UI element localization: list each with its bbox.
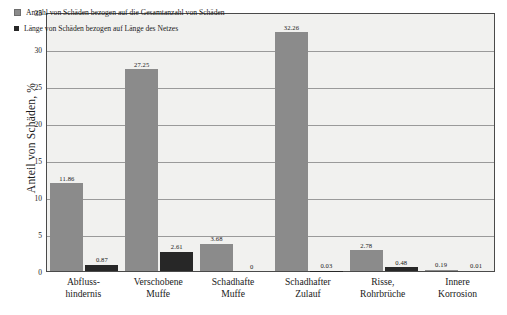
bar-group-5: 2.780.48 (350, 14, 418, 271)
bar-value-label-s2-c3: 0 (250, 263, 253, 270)
y-axis-tick-10: 10 (20, 194, 42, 203)
bar-chart: Anteil von Schäden, % 05101520253035 11.… (0, 0, 507, 315)
bar-series1-cat6 (425, 270, 458, 271)
y-axis-tick-0: 0 (20, 268, 42, 277)
x-axis-label-4: SchadhafterZulauf (271, 276, 346, 300)
x-axis-label-2-line-2: Muffe (121, 288, 196, 300)
bar-value-label-s1-c6: 0.19 (435, 261, 447, 268)
x-axis-label-6: InnereKorrosion (420, 276, 495, 300)
bar-series1-cat2 (125, 69, 158, 271)
series-2-swatch (14, 26, 19, 31)
bar-value-label-s1-c3: 3.68 (211, 235, 223, 242)
bar-group-3: 3.680 (200, 14, 268, 271)
bar-value-label-s1-c4: 32.26 (284, 24, 299, 31)
bar-value-label-s1-c2: 27.25 (134, 61, 149, 68)
x-axis-label-2-line-1: Verschobene (121, 276, 196, 288)
bar-group-2: 27.252.61 (125, 14, 193, 271)
x-axis-label-4-line-2: Zulauf (271, 288, 346, 300)
bar-value-label-s1-c5: 2.78 (360, 242, 372, 249)
bar-series1-cat3 (200, 244, 233, 271)
plot-area: 11.860.8727.252.613.68032.260.032.780.48… (46, 13, 495, 272)
bar-series2-cat1 (85, 265, 118, 271)
x-axis-label-1-line-2: hindernis (46, 288, 121, 300)
legend-item-1: Anzahl von Schäden bezogen auf die Gesam… (14, 8, 225, 17)
bar-series2-cat2 (160, 252, 193, 271)
bars-layer: 11.860.8727.252.613.68032.260.032.780.48… (47, 14, 494, 271)
x-axis-label-3-line-2: Muffe (196, 288, 271, 300)
bar-series1-cat5 (350, 250, 383, 271)
x-axis-label-4-line-1: Schadhafter (271, 276, 346, 288)
bar-value-label-s2-c1: 0.87 (96, 256, 108, 263)
y-axis-tick-labels: 05101520253035 (20, 13, 42, 272)
x-axis-label-1: Abfluss-hindernis (46, 276, 121, 300)
bar-group-4: 32.260.03 (275, 14, 343, 271)
x-axis-label-3-line-1: Schadhafte (196, 276, 271, 288)
y-axis-tick-25: 25 (20, 83, 42, 92)
x-axis-label-6-line-1: Innere (420, 276, 495, 288)
legend-item-2: Länge von Schäden bezogen auf Länge des … (14, 24, 225, 33)
x-axis-label-6-line-2: Korrosion (420, 288, 495, 300)
x-axis-label-5-line-1: Risse, (345, 276, 420, 288)
y-axis-tick-30: 30 (20, 46, 42, 55)
bar-value-label-s2-c5: 0.48 (395, 259, 407, 266)
x-axis-label-5: Risse,Rohrbrüche (345, 276, 420, 300)
bar-value-label-s1-c1: 11.86 (59, 175, 74, 182)
chart-legend: Anzahl von Schäden bezogen auf die Gesam… (14, 8, 225, 40)
x-axis-category-labels: Abfluss-hindernisVerschobeneMuffeSchadha… (46, 276, 495, 312)
y-axis-tick-5: 5 (20, 231, 42, 240)
bar-value-label-s2-c6: 0.01 (470, 262, 482, 269)
bar-value-label-s2-c2: 2.61 (171, 243, 183, 250)
x-axis-label-1-line-1: Abfluss- (46, 276, 121, 288)
bar-series1-cat1 (50, 183, 83, 271)
bar-value-label-s2-c4: 0.03 (320, 262, 332, 269)
bar-group-6: 0.190.01 (425, 14, 493, 271)
bar-series1-cat4 (275, 32, 308, 271)
legend-label-1: Anzahl von Schäden bezogen auf die Gesam… (26, 8, 225, 17)
y-axis-tick-15: 15 (20, 157, 42, 166)
x-axis-label-3: SchadhafteMuffe (196, 276, 271, 300)
legend-label-2: Länge von Schäden bezogen auf Länge des … (24, 24, 178, 33)
series-1-swatch (14, 9, 21, 16)
y-axis-tick-20: 20 (20, 120, 42, 129)
x-axis-label-2: VerschobeneMuffe (121, 276, 196, 300)
x-axis-label-5-line-2: Rohrbrüche (345, 288, 420, 300)
bar-group-1: 11.860.87 (50, 14, 118, 271)
bar-series2-cat5 (385, 267, 418, 271)
